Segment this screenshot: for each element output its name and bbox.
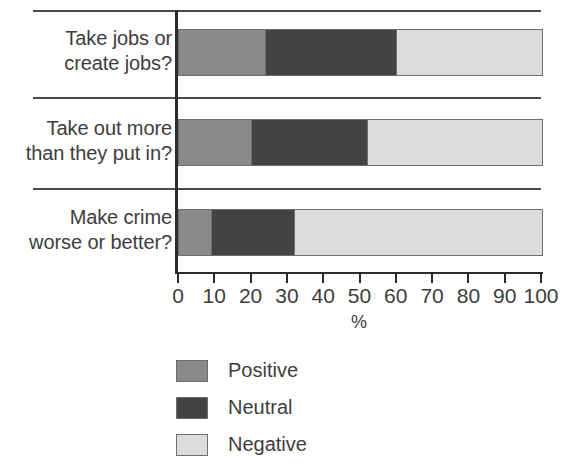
bar-segment-neutral [211, 210, 295, 255]
bar-segment-negative [367, 120, 542, 165]
stacked-bar-chart: Take jobs or create jobs? Take out more … [0, 0, 579, 476]
legend-swatch-neutral [176, 397, 208, 419]
bar-row-1 [178, 119, 543, 166]
x-axis-tick [395, 274, 397, 283]
category-label-2: Make crime worse or better? [0, 205, 172, 255]
category-label-1-line1: Take out more [47, 117, 172, 139]
bar-row-2 [178, 209, 543, 256]
legend-label-negative: Negative [228, 433, 307, 456]
category-label-2-line2: worse or better? [0, 230, 172, 255]
row-separator-middle [33, 97, 541, 99]
x-axis-tick [504, 274, 506, 283]
category-label-1: Take out more than they put in? [0, 116, 172, 166]
bar-segment-neutral [265, 30, 397, 75]
legend-label-neutral: Neutral [228, 396, 292, 419]
category-label-0: Take jobs or create jobs? [0, 26, 172, 76]
x-axis-tick [431, 274, 433, 283]
row-separator-bottom [33, 188, 541, 190]
x-axis-tick [467, 274, 469, 283]
bar-segment-neutral [251, 120, 368, 165]
legend-swatch-positive [176, 360, 208, 382]
legend: Positive Neutral Negative [176, 352, 307, 463]
row-separator-top [33, 10, 541, 12]
x-axis-tick [322, 274, 324, 283]
category-label-1-line2: than they put in? [0, 141, 172, 166]
legend-label-positive: Positive [228, 359, 298, 382]
bar-segment-positive [179, 210, 212, 255]
x-axis-tick [213, 274, 215, 283]
x-axis-tick [286, 274, 288, 283]
bar-segment-positive [179, 30, 266, 75]
x-axis-title: % [175, 312, 543, 333]
legend-item-positive: Positive [176, 352, 307, 389]
bar-segment-negative [396, 30, 542, 75]
x-axis-tick [359, 274, 361, 283]
legend-item-negative: Negative [176, 426, 307, 463]
x-axis-tick-label: 100 [519, 284, 563, 308]
category-label-2-line1: Make crime [70, 206, 172, 228]
bar-row-0 [178, 29, 543, 76]
bar-segment-negative [294, 210, 542, 255]
x-axis-tick [250, 274, 252, 283]
category-label-0-line1: Take jobs or [65, 27, 172, 49]
bar-segment-positive [179, 120, 252, 165]
legend-swatch-negative [176, 434, 208, 456]
x-axis-tick [540, 274, 542, 283]
x-axis-tick [177, 274, 179, 283]
category-label-0-line2: create jobs? [0, 51, 172, 76]
legend-item-neutral: Neutral [176, 389, 307, 426]
